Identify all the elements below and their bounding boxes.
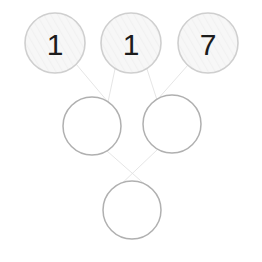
pyramid-diagram: 117 [0,0,262,262]
pyramid-node-filled[interactable]: 1 [101,13,161,73]
pyramid-node-empty[interactable] [63,97,121,155]
node-value-label: 7 [200,28,217,61]
pyramid-edge [108,69,115,102]
nodes-layer: 117 [25,13,238,239]
node-circle-shape-blank[interactable] [143,95,201,153]
pyramid-node-empty[interactable] [143,95,201,153]
pyramid-node-empty[interactable] [103,181,161,239]
pyramid-edge [147,69,157,100]
node-value-label: 1 [123,28,140,61]
node-circle-shape-blank[interactable] [63,97,121,155]
number-pyramid-puzzle: 117 [0,0,262,262]
pyramid-node-filled[interactable]: 7 [178,13,238,73]
pyramid-node-filled[interactable]: 1 [25,13,85,73]
node-circle-shape-blank[interactable] [103,181,161,239]
node-value-label: 1 [47,28,64,61]
